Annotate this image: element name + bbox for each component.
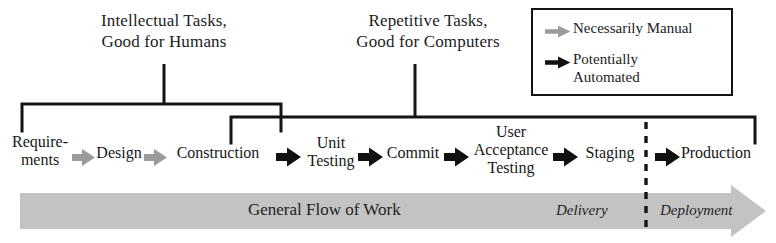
node-design-line1: Design	[89, 144, 149, 162]
flow-node-construction[interactable]: Construction	[159, 144, 277, 162]
flow-node-user-acceptance-testing[interactable]: User Acceptance Testing	[461, 123, 561, 177]
flow-node-commit[interactable]: Commit	[378, 144, 448, 162]
flow-node-requirements[interactable]: Require- ments	[4, 133, 76, 169]
node-uat-line1: User	[461, 123, 561, 141]
banner-label-deployment: Deployment	[660, 202, 732, 219]
flow-node-design[interactable]: Design	[89, 144, 149, 162]
arrow-construction-to-unit-testing	[276, 148, 301, 167]
node-commit-line1: Commit	[378, 144, 448, 162]
node-unit-testing-line2: Testing	[300, 152, 362, 170]
node-staging-line1: Staging	[577, 144, 643, 162]
node-requirements-line2: ments	[4, 151, 76, 169]
node-uat-line2: Acceptance	[461, 141, 561, 159]
node-production-line1: Production	[668, 144, 764, 162]
banner-title: General Flow of Work	[248, 200, 401, 220]
flow-node-unit-testing[interactable]: Unit Testing	[300, 134, 362, 170]
node-unit-testing-line1: Unit	[300, 134, 362, 152]
node-requirements-line1: Require-	[4, 133, 76, 151]
diagram-canvas: Intellectual Tasks, Good for Humans Repe…	[0, 0, 776, 243]
flow-node-production[interactable]: Production	[668, 144, 764, 162]
banner-label-delivery: Delivery	[556, 202, 608, 219]
flow-node-staging[interactable]: Staging	[577, 144, 643, 162]
node-uat-line3: Testing	[461, 159, 561, 177]
node-construction-line1: Construction	[159, 144, 277, 162]
